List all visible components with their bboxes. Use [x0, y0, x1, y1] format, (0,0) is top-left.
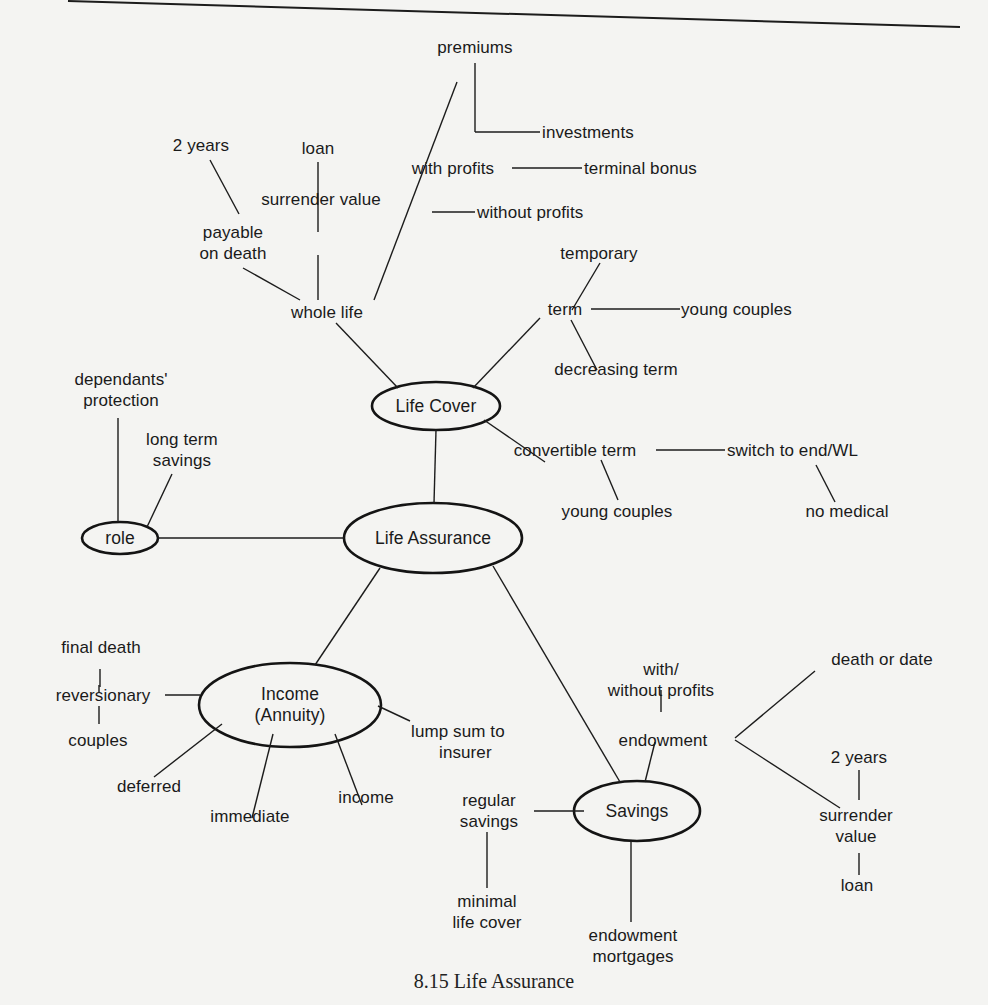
label-loan-bottom: loan — [841, 875, 874, 896]
node-role: role — [105, 528, 135, 549]
label-regular-line2: savings — [460, 811, 518, 832]
node-savings: Savings — [606, 801, 669, 822]
label-final-death: final death — [61, 637, 141, 658]
page-rule — [68, 1, 960, 27]
label-term: term — [548, 299, 582, 320]
label-income-leaf: income — [338, 787, 393, 808]
label-dependants-line2: protection — [74, 390, 167, 411]
label-regular-savings: regular savings — [460, 790, 518, 832]
label-2-years-bottom: 2 years — [831, 747, 887, 768]
figure-caption: 8.15 Life Assurance — [414, 970, 575, 993]
node-income-line1: Income — [255, 684, 326, 705]
label-loan-top: loan — [302, 138, 335, 159]
label-switch-to-end-wl: switch to end/WL — [727, 440, 858, 461]
node-income: Income (Annuity) — [255, 684, 326, 726]
label-no-medical: no medical — [805, 501, 888, 522]
label-minimal-life-cover: minimal life cover — [452, 891, 521, 933]
label-dependants-protection: dependants' protection — [74, 369, 167, 411]
label-surrender-value-bottom: surrender value — [819, 805, 893, 847]
label-mortgages-line1: endowment — [589, 925, 678, 946]
label-with-profits: with profits — [412, 158, 494, 179]
node-life-cover: Life Cover — [396, 396, 477, 417]
label-long-term-line2: savings — [146, 450, 218, 471]
label-convertible-term: convertible term — [514, 440, 637, 461]
label-minimal-line1: minimal — [452, 891, 521, 912]
label-couples: couples — [68, 730, 127, 751]
label-premiums: premiums — [437, 37, 512, 58]
label-surrender-line2: value — [819, 826, 893, 847]
label-long-term-savings: long term savings — [146, 429, 218, 471]
label-young-couples-convertible: young couples — [562, 501, 673, 522]
label-deferred: deferred — [117, 776, 181, 797]
label-surrender-value-top: surrender value — [261, 189, 381, 210]
label-endowment-mortgages: endowment mortgages — [589, 925, 678, 967]
label-with-without-line1: with/ — [608, 659, 714, 680]
label-lump-sum-line2: insurer — [411, 742, 505, 763]
label-lump-sum-line1: lump sum to — [411, 721, 505, 742]
label-whole-life: whole life — [291, 302, 363, 323]
label-surrender-line1: surrender — [819, 805, 893, 826]
label-regular-line1: regular — [460, 790, 518, 811]
label-lump-sum-to-insurer: lump sum to insurer — [411, 721, 505, 763]
label-mortgages-line2: mortgages — [589, 946, 678, 967]
label-reversionary: reversionary — [56, 685, 151, 706]
label-2-years-top: 2 years — [173, 135, 229, 156]
label-with-without-line2: without profits — [608, 680, 714, 701]
label-with-without-profits: with/ without profits — [608, 659, 714, 701]
label-long-term-line1: long term — [146, 429, 218, 450]
label-dependants-line1: dependants' — [74, 369, 167, 390]
label-decreasing-term: decreasing term — [554, 359, 677, 380]
label-minimal-line2: life cover — [452, 912, 521, 933]
label-payable-on-death: payable on death — [200, 222, 267, 264]
label-temporary: temporary — [560, 243, 637, 264]
label-investments: investments — [542, 122, 634, 143]
label-immediate: immediate — [210, 806, 289, 827]
label-death-or-date: death or date — [831, 649, 933, 670]
label-young-couples-term: young couples — [681, 299, 792, 320]
label-payable-line1: payable — [200, 222, 267, 243]
label-terminal-bonus: terminal bonus — [584, 158, 697, 179]
label-payable-line2: on death — [200, 243, 267, 264]
label-without-profits: without profits — [477, 202, 583, 223]
node-income-line2: (Annuity) — [255, 705, 326, 726]
label-endowment: endowment — [619, 730, 708, 751]
node-life-assurance: Life Assurance — [375, 528, 491, 549]
